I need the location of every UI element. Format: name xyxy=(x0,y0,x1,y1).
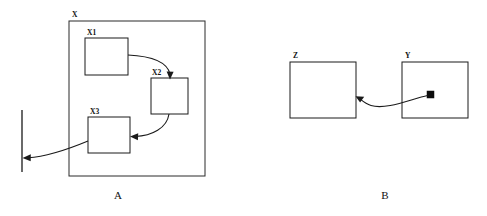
figure-root: X X1 X2 X3 xyxy=(0,0,487,216)
edge-x2-to-x3 xyxy=(130,114,169,140)
edge-x2-to-x3-arrowhead xyxy=(130,133,138,140)
node-y-label: Y xyxy=(405,51,411,60)
edge-x1-to-x2-path xyxy=(128,55,170,74)
edge-x3-to-boundary-arrowhead xyxy=(23,154,31,161)
node-x1-label: X1 xyxy=(87,28,97,37)
node-z-label: Z xyxy=(293,51,298,60)
panel-a-caption: A xyxy=(114,189,122,201)
node-x3-label: X3 xyxy=(90,107,100,116)
node-x3-rect[interactable] xyxy=(88,117,130,153)
panel-a: X X1 X2 X3 xyxy=(22,10,205,201)
edge-x2-to-x3-path xyxy=(135,114,169,137)
node-x2-rect[interactable] xyxy=(151,78,188,114)
edge-x3-to-boundary xyxy=(23,141,89,161)
diagram-canvas: X X1 X2 X3 xyxy=(0,0,487,216)
edge-y-to-z-path xyxy=(360,96,428,107)
node-y-rect[interactable] xyxy=(402,62,468,118)
node-z-rect[interactable] xyxy=(290,62,356,118)
panel-b-caption: B xyxy=(381,189,388,201)
node-x1-rect[interactable] xyxy=(85,38,128,75)
node-x2-label: X2 xyxy=(152,68,162,77)
edge-y-to-z xyxy=(356,96,428,107)
edge-x1-to-x2 xyxy=(128,55,174,80)
panel-b: Z Y B xyxy=(290,51,468,201)
edge-x3-to-boundary-path xyxy=(28,141,88,158)
container-x-label: X xyxy=(72,10,78,19)
state-marker-square[interactable] xyxy=(427,91,434,98)
